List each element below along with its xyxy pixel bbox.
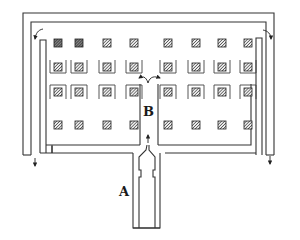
inlet-duct xyxy=(133,145,160,228)
label-b: B xyxy=(143,104,154,119)
grid-object xyxy=(218,63,226,71)
grid-object xyxy=(218,88,226,96)
grid-object xyxy=(54,39,62,47)
grid-object xyxy=(244,88,252,96)
grid-object xyxy=(75,63,83,71)
split-arrow-right xyxy=(148,77,160,83)
grid-object xyxy=(164,39,172,47)
grid-object xyxy=(218,39,226,47)
airflow-diagram: B A xyxy=(0,0,300,240)
right-return-channel xyxy=(256,38,274,155)
grid-object xyxy=(75,121,83,129)
grid-object xyxy=(244,63,252,71)
grid-object xyxy=(192,88,200,96)
left-return-channel xyxy=(23,40,46,155)
grid-object xyxy=(192,39,200,47)
grid-object xyxy=(103,121,111,129)
grid-object xyxy=(244,121,252,129)
grid-object xyxy=(54,63,62,71)
grid-object xyxy=(54,121,62,129)
grid-object xyxy=(75,39,83,47)
outer-enclosure xyxy=(23,13,274,155)
grid-object xyxy=(218,121,226,129)
grid-object xyxy=(192,121,200,129)
label-a: A xyxy=(118,184,130,199)
grid-object xyxy=(103,88,111,96)
grid-object xyxy=(75,88,83,96)
grid-object xyxy=(192,63,200,71)
grid-object xyxy=(164,63,172,71)
grid-object xyxy=(130,88,138,96)
corner-arrow-right xyxy=(263,30,271,39)
grid-object xyxy=(103,39,111,47)
grid-object xyxy=(244,39,252,47)
grid-object xyxy=(164,88,172,96)
grid-object xyxy=(164,121,172,129)
grid-object xyxy=(130,39,138,47)
grid-object xyxy=(130,63,138,71)
grid-object xyxy=(103,63,111,71)
grid-object xyxy=(54,88,62,96)
split-arrow-left xyxy=(139,77,148,83)
grid-object xyxy=(130,121,138,129)
corner-arrow-left xyxy=(35,29,43,39)
